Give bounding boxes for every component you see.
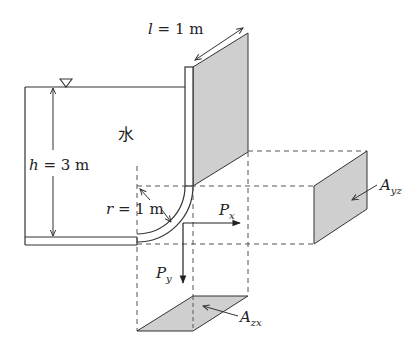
area-zx-label: Azx [240,310,262,325]
height-label: h = 3 m [29,158,89,173]
area-yz-label: Ayz [380,178,402,193]
length-value: = 1 m [153,20,204,38]
radius-label: r = 1 m [106,202,164,217]
wall-plate [185,67,193,186]
radius-value: = 1 m [113,200,164,218]
force-y-label: Py [156,266,172,281]
area-yz-projection [314,151,367,244]
length-label: l = 1 m [148,22,203,37]
area-yz-sub: yz [391,185,402,196]
water-label: 水 [118,127,134,143]
height-var: h [29,156,39,174]
hydrostatic-diagram [0,0,418,353]
force-x-sub: x [229,210,235,221]
area-zx-main: A [240,308,251,326]
area-yz-main: A [380,176,391,194]
height-value: = 3 m [39,156,90,174]
force-x-label: Px [219,203,235,218]
force-y-sub: y [166,273,172,284]
force-y-main: P [156,264,166,282]
water-surface-icon [60,79,72,87]
force-x-main: P [219,201,229,219]
area-zx-sub: zx [251,317,262,328]
